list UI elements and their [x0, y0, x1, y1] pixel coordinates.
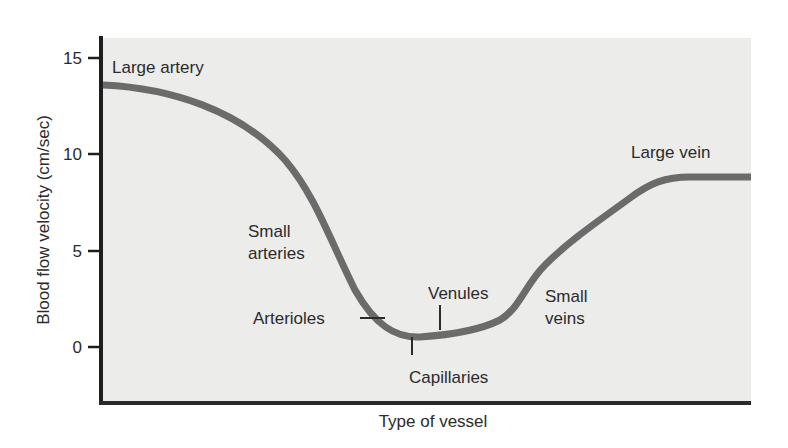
label-small-arteries-line1: Small	[248, 222, 291, 241]
label-arterioles: Arterioles	[253, 309, 325, 328]
label-capillaries: Capillaries	[409, 368, 488, 387]
label-small-veins-line1: Small	[545, 287, 588, 306]
label-venules: Venules	[428, 284, 489, 303]
label-small-veins-line2: veins	[545, 309, 585, 328]
x-axis-label: Type of vessel	[379, 412, 488, 431]
blood-flow-chart: 15 10 5 0 Blood flow velocity (cm/sec) T…	[0, 0, 788, 448]
y-tick-label-10: 10	[63, 145, 82, 164]
y-tick-label-0: 0	[73, 338, 82, 357]
y-tick-label-5: 5	[73, 242, 82, 261]
y-axis-label: Blood flow velocity (cm/sec)	[34, 115, 53, 325]
plot-area	[102, 38, 751, 402]
y-tick-label-15: 15	[63, 49, 82, 68]
label-large-artery: Large artery	[112, 58, 204, 77]
label-large-vein: Large vein	[631, 143, 710, 162]
label-small-arteries-line2: arteries	[248, 244, 305, 263]
